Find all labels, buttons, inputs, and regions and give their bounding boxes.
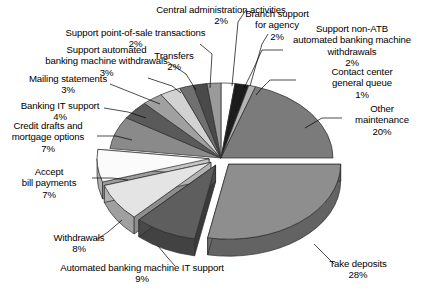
slice-label-transfers: Transfers 2% bbox=[141, 50, 207, 73]
pie-slice[interactable] bbox=[208, 164, 341, 239]
leader-line bbox=[244, 50, 283, 88]
slice-label-take-deposits: Take deposits 28% bbox=[308, 258, 408, 281]
slice-label-credit-drafts-and-mortgage-options: Credit drafts and mortgage options 7% bbox=[0, 120, 96, 154]
slice-label-other-maintenance: Other maintenance 20% bbox=[343, 103, 421, 137]
slice-label-automated-banking-machine-it-support: Automated banking machine IT support 9% bbox=[32, 262, 252, 285]
pie-chart-figure: Central administration activities 2% Sup… bbox=[0, 0, 421, 291]
slice-label-withdrawals: Withdrawals 8% bbox=[38, 232, 120, 255]
slice-label-mailing-statements: Mailing statements 3% bbox=[8, 73, 128, 96]
slice-label-support-non-atb-automated-banking-machine-withdrawals: Support non-ATB automated banking machin… bbox=[282, 23, 421, 69]
slice-label-accept-bill-payments: Accept bill payments 7% bbox=[8, 166, 90, 200]
pie-slices-group bbox=[97, 83, 341, 256]
slice-label-contact-center-general-queue: Contact center general queue 1% bbox=[303, 66, 421, 100]
